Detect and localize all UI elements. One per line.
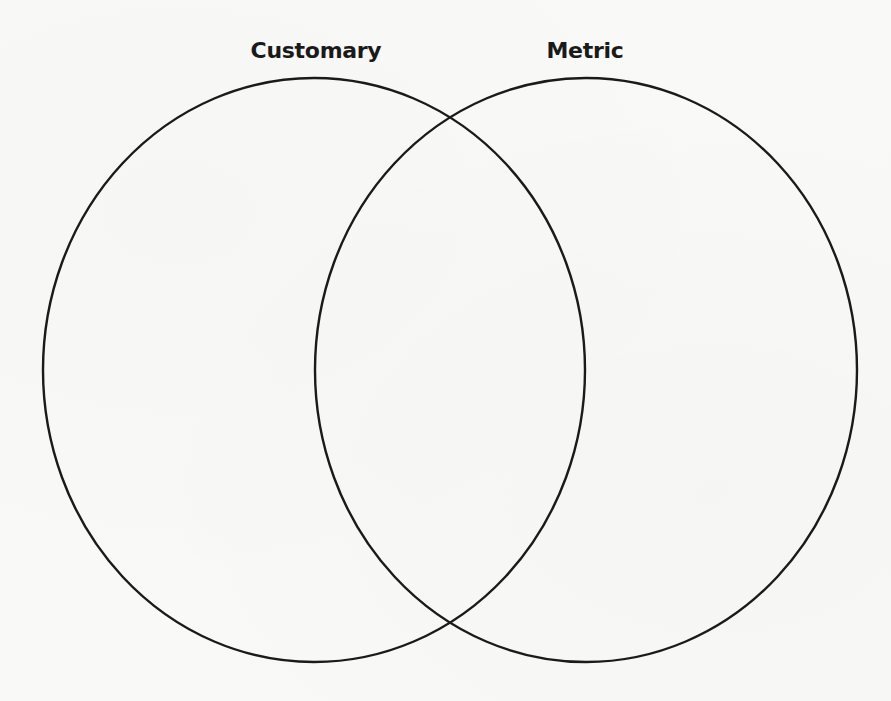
venn-diagram <box>0 0 891 701</box>
customary-label: Customary <box>251 38 382 63</box>
metric-label: Metric <box>547 38 624 63</box>
